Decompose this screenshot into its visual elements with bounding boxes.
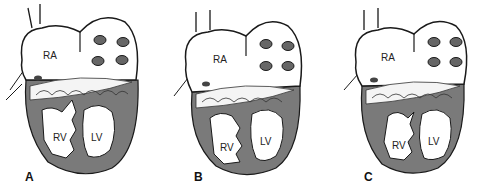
heart-illustration-b	[160, 0, 320, 188]
label-right-ventricle: RV	[53, 132, 67, 143]
label-right-atrium: RA	[213, 54, 227, 65]
heart-illustration-a	[0, 0, 160, 188]
label-right-ventricle: RV	[392, 140, 406, 151]
label-right-ventricle: RV	[220, 142, 234, 153]
panel-c: RA RV LV C	[318, 0, 478, 188]
panel-b: RA RV LV B	[160, 0, 320, 188]
panel-letter-a: A	[25, 170, 34, 184]
heart-illustration-c	[318, 0, 478, 188]
label-left-ventricle: LV	[91, 132, 103, 143]
label-left-ventricle: LV	[428, 136, 440, 147]
label-left-ventricle: LV	[260, 136, 272, 147]
panel-letter-b: B	[194, 170, 203, 184]
label-right-atrium: RA	[43, 50, 57, 61]
panel-letter-c: C	[364, 170, 373, 184]
panel-a: RA RV LV A	[0, 0, 160, 188]
label-right-atrium: RA	[381, 52, 395, 63]
